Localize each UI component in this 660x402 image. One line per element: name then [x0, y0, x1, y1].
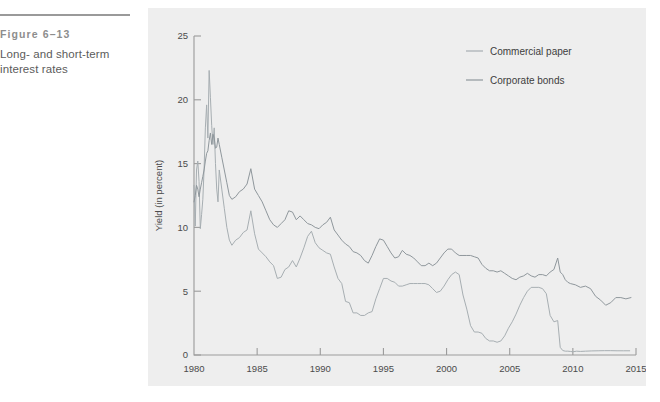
legend-label-corporate-bonds: Corporate bonds	[490, 75, 565, 86]
line-chart: 0510152025 19801985199019952000200520102…	[148, 8, 646, 386]
y-tick-label: 20	[177, 94, 188, 105]
y-tick-label: 15	[177, 158, 188, 169]
y-tick-label: 0	[183, 349, 188, 360]
x-axis-tick-labels: 19801985199019952000200520102015	[183, 363, 646, 374]
legend-label-commercial-paper: Commercial paper	[490, 46, 572, 57]
figure-root: Figure 6–13 Long- and short-term interes…	[0, 0, 660, 402]
chart-panel: 0510152025 19801985199019952000200520102…	[148, 8, 646, 386]
figure-caption-column: Figure 6–13 Long- and short-term interes…	[0, 0, 140, 402]
series-line-commercial-paper	[194, 70, 630, 351]
y-tick-label: 5	[183, 286, 188, 297]
y-tick-label: 10	[177, 222, 188, 233]
series-line-corporate-bonds	[194, 133, 631, 305]
x-tick-label: 2005	[499, 363, 520, 374]
figure-title: Long- and short-term interest rates	[0, 47, 134, 77]
x-tick-label: 2000	[436, 363, 457, 374]
y-axis-tick-labels: 0510152025	[177, 30, 188, 360]
series-group	[194, 70, 631, 351]
x-tick-label: 1985	[247, 363, 268, 374]
x-tick-label: 1990	[310, 363, 331, 374]
x-tick-label: 1995	[373, 363, 394, 374]
y-axis-title: Yield (in percent)	[153, 160, 164, 231]
chart-legend: Commercial paperCorporate bonds	[466, 46, 572, 86]
y-tick-label: 25	[177, 30, 188, 41]
axis-lines	[194, 36, 636, 355]
figure-number: Figure 6–13	[0, 28, 136, 40]
axes-group	[194, 36, 636, 355]
x-tick-label: 2010	[562, 363, 583, 374]
x-tick-label: 2015	[625, 363, 646, 374]
x-tick-label: 1980	[183, 363, 204, 374]
caption-divider-rule	[0, 14, 130, 16]
